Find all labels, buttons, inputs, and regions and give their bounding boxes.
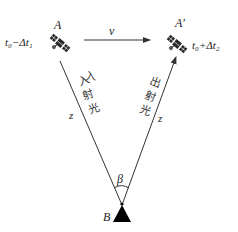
satellite-a-label: A: [53, 18, 62, 32]
satellite-a-prime-icon: [163, 34, 188, 58]
angle-arc: [114, 186, 129, 188]
ground-station-icon: [113, 205, 131, 222]
outgoing-distance-label: z: [157, 112, 163, 124]
time-start-label: t₀−Δt₁: [5, 36, 33, 48]
satellite-a-prime-label: A′: [174, 16, 185, 30]
incident-char-guang: 光: [86, 100, 101, 117]
outgoing-char-chu: 出: [148, 74, 163, 91]
incident-char-she: 射: [80, 86, 95, 103]
velocity-label: v: [109, 24, 115, 38]
time-end-label: t₀+Δt₂: [192, 39, 220, 51]
outgoing-ray-arrow: [122, 57, 176, 205]
diagram-svg: A t₀−Δt₁ v A′ t₀+Δt₂ 入 入 入 射 光 z 出 射 光 z…: [0, 0, 238, 232]
angle-label: β: [116, 172, 123, 186]
outgoing-char-she: 射: [143, 88, 158, 105]
ground-station-label: B: [103, 210, 111, 224]
diagram-canvas: A t₀−Δt₁ v A′ t₀+Δt₂ 入 入 入 射 光 z 出 射 光 z…: [0, 0, 238, 232]
outgoing-char-guang: 光: [138, 102, 153, 119]
incident-distance-label: z: [68, 109, 74, 121]
satellite-a-icon: [46, 33, 71, 57]
